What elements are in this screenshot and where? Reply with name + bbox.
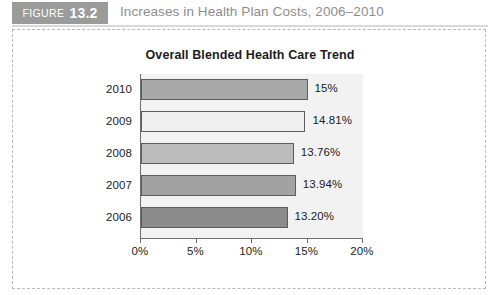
- x-tick-label: 0%: [120, 245, 160, 257]
- x-tick: [307, 238, 308, 243]
- bar-value-label: 14.81%: [312, 114, 352, 126]
- category-label-2008: 2008: [72, 147, 132, 159]
- bar-2006: [141, 207, 288, 228]
- bar-row: 13.20%: [141, 207, 363, 228]
- bar-row: 15%: [141, 79, 363, 100]
- x-tick-label: 15%: [287, 245, 327, 257]
- x-tick: [140, 238, 141, 243]
- bar-value-label: 13.76%: [301, 146, 341, 158]
- bar-row: 14.81%: [141, 111, 363, 132]
- x-tick-label: 20%: [342, 245, 382, 257]
- bar-row: 13.94%: [141, 175, 363, 196]
- header-divider: [12, 25, 488, 27]
- chart-title: Overall Blended Health Care Trend: [13, 48, 487, 62]
- figure-frame: Overall Blended Health Care Trend 15%14.…: [12, 29, 486, 289]
- category-label-2010: 2010: [72, 83, 132, 95]
- x-tick-label: 5%: [176, 245, 216, 257]
- figure-page: FIGURE 13.2 Increases in Health Plan Cos…: [0, 0, 500, 295]
- figure-number-badge: FIGURE 13.2: [12, 2, 108, 24]
- bar-value-label: 13.94%: [303, 178, 343, 190]
- category-label-2009: 2009: [72, 115, 132, 127]
- figure-badge-word: FIGURE: [22, 8, 64, 19]
- bar-2007: [141, 175, 296, 196]
- bar-row: 13.76%: [141, 143, 363, 164]
- plot-area: 15%14.81%13.76%13.94%13.20%: [140, 74, 363, 238]
- x-tick: [196, 238, 197, 243]
- x-tick: [251, 238, 252, 243]
- category-label-2006: 2006: [72, 211, 132, 223]
- bar-2008: [141, 143, 294, 164]
- x-tick: [362, 238, 363, 243]
- x-tick-label: 10%: [231, 245, 271, 257]
- figure-caption: Increases in Health Plan Costs, 2006–201…: [120, 4, 384, 19]
- bar-value-label: 15%: [315, 82, 338, 94]
- category-label-2007: 2007: [72, 179, 132, 191]
- bar-2010: [141, 79, 308, 100]
- bar-value-label: 13.20%: [295, 210, 335, 222]
- bar-2009: [141, 111, 305, 132]
- figure-badge-number: 13.2: [70, 6, 98, 20]
- figure-header: FIGURE 13.2 Increases in Health Plan Cos…: [0, 0, 500, 29]
- bars-container: 15%14.81%13.76%13.94%13.20%: [141, 74, 363, 238]
